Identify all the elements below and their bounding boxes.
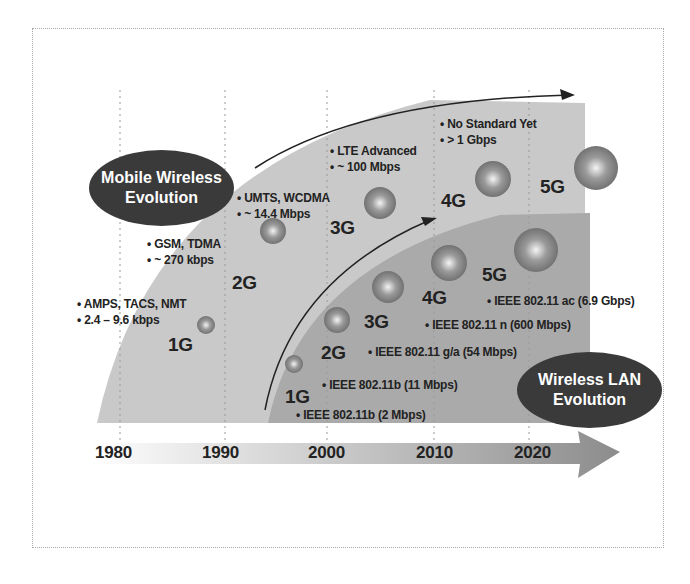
bullet: • ~ 270 kbps	[147, 252, 221, 268]
wlan-standard: • IEEE 802.11b (2 Mbps)	[296, 407, 426, 423]
wlan-gen-label: 1G	[285, 386, 310, 408]
diagram-background	[0, 0, 690, 584]
bullet: • UMTS, WCDMA	[237, 190, 330, 206]
year-label: 2010	[416, 443, 453, 463]
bullet: • LTE Advanced	[330, 143, 417, 159]
oval-line: Evolution	[517, 390, 662, 410]
mobile-5g-bullets: • No Standard Yet • > 1 Gbps	[440, 116, 537, 148]
wlan-standard: • IEEE 802.11 g/a (54 Mbps)	[368, 344, 517, 360]
mobile-gen-label: 3G	[330, 217, 355, 239]
bullet: • 2.4 – 9.6 kbps	[77, 312, 186, 328]
mobile-gen-label: 5G	[540, 176, 565, 198]
bullet: • > 1 Gbps	[440, 132, 537, 148]
oval-line: Evolution	[89, 188, 234, 208]
year-label: 2000	[308, 443, 345, 463]
wlan-gen-label: 2G	[321, 342, 346, 364]
wlan-gen-label: 3G	[364, 311, 389, 333]
mobile-4g-bullets: • LTE Advanced • ~ 100 Mbps	[330, 143, 417, 175]
wlan-gen-label: 4G	[422, 287, 447, 309]
year-label: 2020	[514, 443, 551, 463]
wlan-gen-label: 5G	[482, 264, 507, 286]
oval-line: Mobile Wireless	[89, 168, 234, 188]
wlan-standard: • IEEE 802.11 n (600 Mbps)	[425, 317, 571, 333]
bullet: • ~ 14.4 Mbps	[237, 206, 330, 222]
wlan-standard: • IEEE 802.11 ac (6.9 Gbps)	[487, 293, 635, 309]
bullet: • No Standard Yet	[440, 116, 537, 132]
wlan-standard: • IEEE 802.11b (11 Mbps)	[322, 377, 457, 393]
mobile-2g-bullets: • GSM, TDMA • ~ 270 kbps	[147, 236, 221, 268]
year-label: 1990	[202, 443, 239, 463]
wireless-lan-evolution-label: Wireless LAN Evolution	[517, 352, 662, 428]
mobile-gen-label: 1G	[168, 334, 193, 356]
bullet: • GSM, TDMA	[147, 236, 221, 252]
mobile-gen-label: 4G	[441, 190, 466, 212]
mobile-wireless-evolution-label: Mobile Wireless Evolution	[89, 150, 234, 226]
year-label: 1980	[95, 443, 132, 463]
oval-line: Wireless LAN	[517, 370, 662, 390]
mobile-gen-label: 2G	[232, 272, 257, 294]
bullet: • AMPS, TACS, NMT	[77, 296, 186, 312]
bullet: • ~ 100 Mbps	[330, 159, 417, 175]
mobile-1g-bullets: • AMPS, TACS, NMT • 2.4 – 9.6 kbps	[77, 296, 186, 328]
mobile-3g-bullets: • UMTS, WCDMA • ~ 14.4 Mbps	[237, 190, 330, 222]
